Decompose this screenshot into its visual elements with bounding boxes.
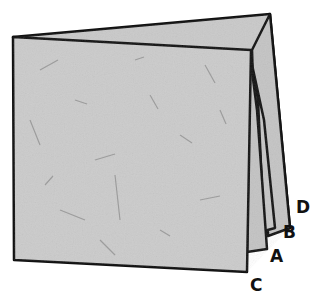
label-a: A xyxy=(270,246,284,266)
label-b: B xyxy=(283,222,296,242)
paper-texture xyxy=(13,14,290,272)
folded-paper-diagram: D B A C xyxy=(0,0,312,297)
label-c: C xyxy=(250,275,262,295)
label-d: D xyxy=(296,197,310,217)
